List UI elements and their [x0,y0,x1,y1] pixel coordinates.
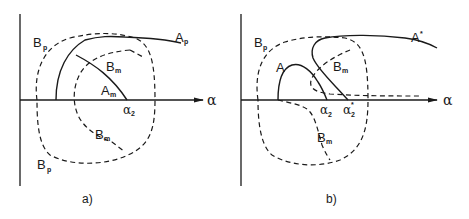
svg-text:α: α [320,103,328,117]
curve-a-star [312,35,437,100]
label-a-p: A p [175,30,188,46]
label-b-m-lower-b: B m [317,130,332,145]
svg-text:m: m [342,67,348,74]
svg-text:m: m [326,138,332,145]
curve-b-p-a [36,34,155,164]
label-a-star: A * [411,30,423,45]
alpha-axis-label-b: α [443,92,453,108]
diagram-canvas: α B p A p B m A m α 2 B [0,0,469,219]
svg-text:p: p [43,44,47,52]
label-b-p-lower-a: B p [37,157,51,174]
caption-a: a) [82,192,93,206]
svg-text:α: α [123,103,131,117]
svg-text:m: m [104,135,110,142]
svg-text:B: B [317,130,326,145]
svg-text:p: p [184,38,188,46]
svg-text:A: A [276,60,285,75]
caption-b: b) [326,192,337,206]
panel-a: α B p A p B m A m α 2 B [20,14,217,206]
svg-text:m: m [115,67,121,74]
panel-b: α B p A * A B m α 2 α [241,14,453,206]
svg-text:A: A [175,30,184,45]
label-b-p-upper-a: B p [33,35,47,52]
svg-text:2: 2 [328,111,332,118]
svg-text:B: B [33,35,42,50]
label-alpha-2-b: α 2 [320,103,332,118]
label-b-m-lower-a: B m [95,127,110,142]
svg-text:B: B [37,157,46,172]
curve-a-b [278,64,327,100]
alpha-axis-label-a: α [207,92,217,108]
svg-text:p: p [47,166,51,174]
svg-text:B: B [95,127,104,142]
curve-b-m-a-top [130,50,143,57]
svg-text:m: m [110,91,116,98]
label-b-m-upper-b: B m [333,59,348,74]
svg-text:2: 2 [351,111,355,118]
svg-text:B: B [106,59,115,74]
svg-text:2: 2 [131,110,135,117]
label-alpha-2-a: α 2 [123,103,135,117]
svg-text:A: A [101,83,110,98]
label-b-m-upper-a: B m [106,59,121,74]
svg-text:*: * [420,30,423,37]
label-a-m: A m [101,83,116,98]
label-b-p-b: B p [254,35,267,52]
svg-text:A: A [411,30,420,45]
label-alpha-2-star-b: α 2 * [343,101,355,118]
svg-text:p: p [263,44,267,52]
svg-text:B: B [333,59,342,74]
svg-text:α: α [343,103,351,117]
curve-b-m-upper-b [311,50,420,96]
svg-text:*: * [351,101,354,108]
svg-text:B: B [254,35,263,50]
label-a-b: A [276,60,285,75]
